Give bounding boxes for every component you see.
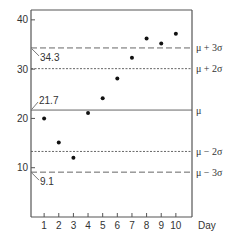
plot-frame xyxy=(31,10,192,217)
y-tick-label: 30 xyxy=(17,64,29,75)
x-tick-label: 10 xyxy=(170,220,182,231)
x-tick-label: 6 xyxy=(115,220,121,231)
x-tick-label: 3 xyxy=(71,220,77,231)
data-point xyxy=(57,141,61,145)
data-point xyxy=(86,111,90,115)
data-point xyxy=(115,77,119,81)
data-point xyxy=(130,56,134,60)
data-point xyxy=(159,42,163,46)
mu-plus-2sigma-label: μ + 2σ xyxy=(196,63,223,74)
y-tick-label: 10 xyxy=(17,162,29,173)
annotation-upper-limit-leader xyxy=(32,49,39,56)
annotation-mean: 21.7 xyxy=(39,95,59,106)
x-tick-label: 1 xyxy=(41,220,47,231)
data-point xyxy=(101,96,105,100)
mu-minus-3sigma-label: μ − 3σ xyxy=(196,167,223,178)
data-point xyxy=(174,32,178,36)
y-axis-ticks: 10203040 xyxy=(17,14,35,173)
x-tick-label: 2 xyxy=(56,220,62,231)
x-tick-label: 7 xyxy=(129,220,135,231)
y-tick-label: 40 xyxy=(17,14,29,25)
control-chart: μ + 3σμ + 2σμμ − 2σμ − 3σ 10203040 12345… xyxy=(0,0,237,242)
x-axis-label: Day xyxy=(198,220,216,231)
data-points xyxy=(42,32,178,160)
data-point xyxy=(42,116,46,120)
mu-plus-3sigma-label: μ + 3σ xyxy=(196,42,223,53)
mu-label: μ xyxy=(196,105,201,116)
annotation-upper-limit: 34.3 xyxy=(40,52,60,63)
mu-minus-2sigma-label: μ − 2σ xyxy=(196,146,223,157)
x-tick-label: 4 xyxy=(85,220,91,231)
annotation-lower-limit: 9.1 xyxy=(40,176,54,187)
data-point xyxy=(145,37,149,41)
data-point xyxy=(71,156,75,160)
x-tick-label: 9 xyxy=(158,220,164,231)
x-axis-ticks: 12345678910 xyxy=(41,213,182,231)
x-tick-label: 8 xyxy=(144,220,150,231)
y-tick-label: 20 xyxy=(17,113,29,124)
annotation-mean-leader xyxy=(32,102,38,109)
reference-lines: μ + 3σμ + 2σμμ − 2σμ − 3σ xyxy=(31,42,223,177)
x-tick-label: 5 xyxy=(100,220,106,231)
annotation-lower-limit-leader xyxy=(32,173,39,180)
